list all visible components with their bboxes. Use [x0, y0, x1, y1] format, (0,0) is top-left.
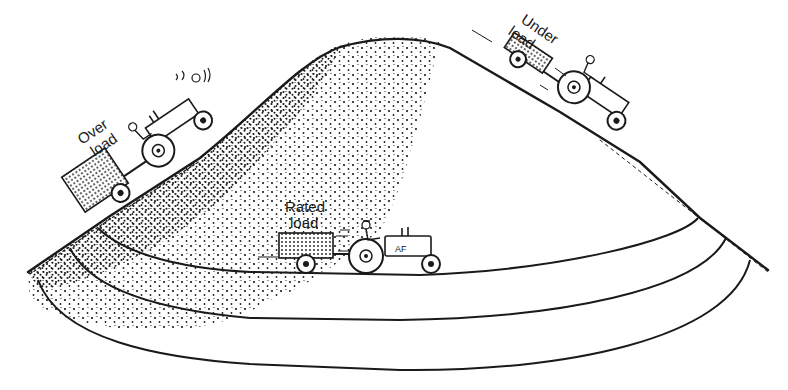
- label-rated: Rated: [285, 198, 325, 215]
- tractor-load-diagram: Over load Under load AF: [0, 0, 788, 390]
- svg-text:Over load: Over load: [74, 113, 123, 162]
- exhaust-icon: [176, 68, 210, 82]
- label-rated-load: load: [290, 214, 318, 231]
- svg-text:AF: AF: [395, 244, 407, 254]
